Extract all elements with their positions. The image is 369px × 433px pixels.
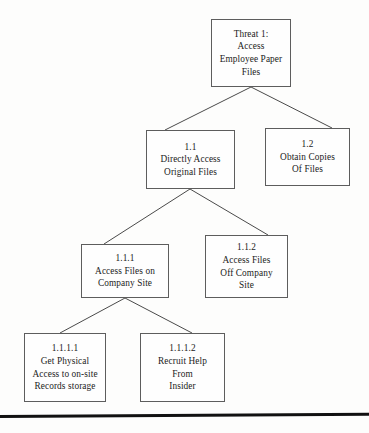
node-label-line: From xyxy=(172,368,193,381)
node-label-line: Access xyxy=(238,40,265,53)
node-label-line: Off Company xyxy=(220,267,272,280)
tree-node-node-1-1-1[interactable]: 1.1.1Access Files onCompany Site xyxy=(81,244,169,298)
connector-threat-1-to-node-1-1 xyxy=(165,87,251,130)
node-label-line: 1.1 xyxy=(185,141,197,154)
attack-tree-diagram: Threat 1:AccessEmployee PaperFiles1.1Dir… xyxy=(0,0,369,433)
node-label-line: Company Site xyxy=(98,277,152,290)
node-label-line: Insider xyxy=(169,380,196,393)
node-label-line: Employee Paper xyxy=(220,53,283,66)
connector-node-1-1-to-node-1-1-2 xyxy=(190,189,268,235)
node-label-line: Obtain Copies xyxy=(280,151,335,164)
node-label-line: Access to on-site xyxy=(32,368,97,381)
node-label-line: Records storage xyxy=(34,380,95,393)
node-label-line: Get Physical xyxy=(41,355,89,368)
node-label-line: 1.1.1 xyxy=(115,252,134,265)
tree-node-node-1-1-1-1[interactable]: 1.1.1.1Get PhysicalAccess to on-siteReco… xyxy=(24,333,106,402)
node-label-line: 1.2 xyxy=(302,138,314,151)
connector-node-1-1-1-to-node-1-1-1-1 xyxy=(60,298,125,333)
node-label-line: Site xyxy=(239,279,254,292)
tree-node-node-1-1-1-2[interactable]: 1.1.1.2Recruit HelpFromInsider xyxy=(140,333,225,402)
tree-node-node-1-2[interactable]: 1.2Obtain CopiesOf Files xyxy=(265,128,350,186)
node-label-line: Access Files on xyxy=(95,265,155,278)
node-label-line: Recruit Help xyxy=(158,355,207,368)
node-label-line: Threat 1: xyxy=(234,28,269,41)
node-label-line: Access Files xyxy=(223,254,271,267)
node-label-line: Files xyxy=(242,66,261,79)
tree-node-node-1-1[interactable]: 1.1Directly AccessOriginal Files xyxy=(146,130,235,189)
node-label-line: Original Files xyxy=(164,166,217,179)
node-label-line: 1.1.1.1 xyxy=(52,342,78,355)
connector-node-1-1-1-to-node-1-1-1-2 xyxy=(125,298,192,333)
node-label-line: Directly Access xyxy=(160,153,220,166)
tree-node-threat-1[interactable]: Threat 1:AccessEmployee PaperFiles xyxy=(211,19,291,87)
tree-node-node-1-1-2[interactable]: 1.1.2Access FilesOff CompanySite xyxy=(205,235,288,298)
node-label-line: Of Files xyxy=(292,163,323,176)
connector-threat-1-to-node-1-2 xyxy=(251,87,332,128)
connector-node-1-1-to-node-1-1-1 xyxy=(104,189,190,244)
node-label-line: 1.1.2 xyxy=(237,241,256,254)
node-label-line: 1.1.1.2 xyxy=(169,342,195,355)
